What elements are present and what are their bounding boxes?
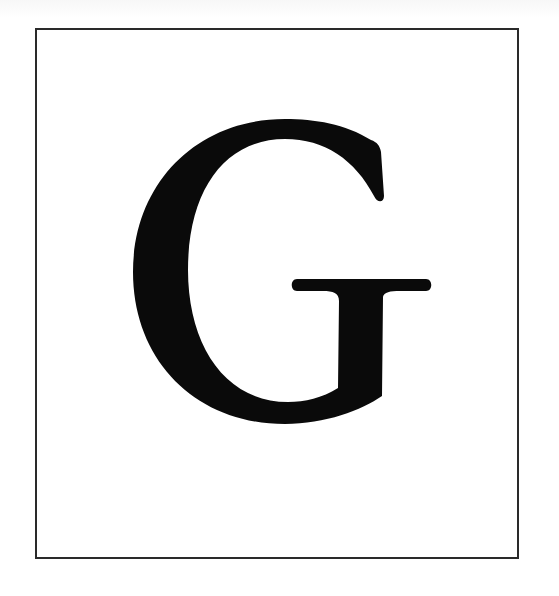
letter-g-glyph: [0, 0, 559, 596]
